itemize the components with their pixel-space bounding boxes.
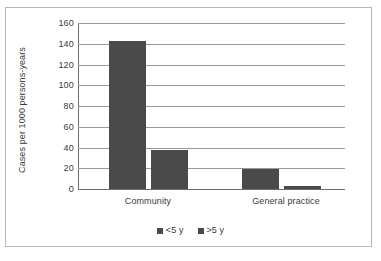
gridline-160 — [78, 23, 345, 24]
bar-generalpractice-under5 — [242, 169, 279, 189]
y-tick-160: 160 — [30, 19, 74, 28]
chart-figure: 160 140 120 100 80 60 40 20 0 Cases per … — [0, 0, 381, 261]
y-axis-tick-labels: 160 140 120 100 80 60 40 20 0 — [26, 0, 74, 261]
y-axis-label: Cases per 1000 persons-years — [17, 40, 27, 180]
bar-generalpractice-over5 — [284, 186, 321, 189]
y-tick-120: 120 — [30, 61, 74, 70]
y-tick-100: 100 — [30, 81, 74, 90]
y-tick-80: 80 — [30, 102, 74, 111]
legend-label-under5: <5 y — [166, 226, 184, 235]
y-tick-40: 40 — [30, 144, 74, 153]
legend-swatch-icon-under5 — [157, 228, 163, 234]
bar-community-under5 — [109, 41, 146, 189]
y-tick-140: 140 — [30, 40, 74, 49]
gridline-0-baseline — [78, 189, 345, 190]
category-label-general-practice: General practice — [241, 196, 331, 206]
y-tick-20: 20 — [30, 164, 74, 173]
legend-item-under5: <5 y — [157, 226, 184, 235]
legend-label-over5: >5 y — [207, 226, 225, 235]
legend-item-over5: >5 y — [198, 226, 225, 235]
bar-community-over5 — [151, 150, 188, 189]
chart-legend: <5 y >5 y — [0, 226, 381, 235]
y-tick-0: 0 — [30, 185, 74, 194]
legend-swatch-icon-over5 — [198, 228, 204, 234]
category-label-community: Community — [108, 196, 188, 206]
plot-area — [78, 23, 345, 189]
y-tick-60: 60 — [30, 123, 74, 132]
